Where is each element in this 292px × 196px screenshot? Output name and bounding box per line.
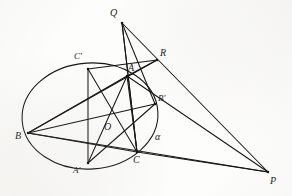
label-point-A: A: [128, 63, 134, 73]
segment-A-P: [127, 76, 268, 172]
point-Q: [121, 22, 124, 25]
label-point-P: P: [270, 176, 276, 186]
segment-R-Cp: [88, 60, 157, 69]
label-point-R: R: [160, 48, 166, 58]
point-A: [126, 75, 129, 78]
label-point-B: B: [15, 131, 21, 141]
point-Cprime: [87, 68, 90, 71]
segments-layer: [27, 22, 270, 174]
point-R: [156, 59, 159, 62]
label-point-O: O: [104, 122, 111, 132]
conic-layer: [18, 58, 161, 173]
point-B: [27, 132, 30, 135]
conic-alpha: [18, 58, 161, 173]
label-point-Cprime: C': [74, 52, 82, 61]
label-point-C: C: [133, 155, 140, 165]
label-point-Aprime: A': [73, 166, 80, 175]
segment-Q-R-P: [122, 23, 268, 172]
point-P: [267, 171, 270, 174]
point-C: [136, 151, 139, 154]
label-conic-alpha: α: [155, 132, 160, 142]
segment-C-Cp: [88, 69, 137, 152]
label-point-Q: Q: [110, 8, 117, 18]
segment-B-Bp: [28, 104, 155, 133]
segment-A-B: [28, 76, 127, 133]
segment-A-C: [127, 76, 137, 152]
segment-C-P: [137, 152, 268, 172]
geometry-figure: QRC'AB'BOCA'Pα: [0, 0, 292, 196]
segment-Bp-Ap: [88, 104, 155, 163]
figure-canvas: [0, 0, 292, 196]
point-Bprime: [154, 103, 157, 106]
label-point-Bprime: B': [158, 94, 165, 103]
point-Aprime: [87, 162, 90, 165]
segment-A-Ap: [88, 76, 127, 163]
